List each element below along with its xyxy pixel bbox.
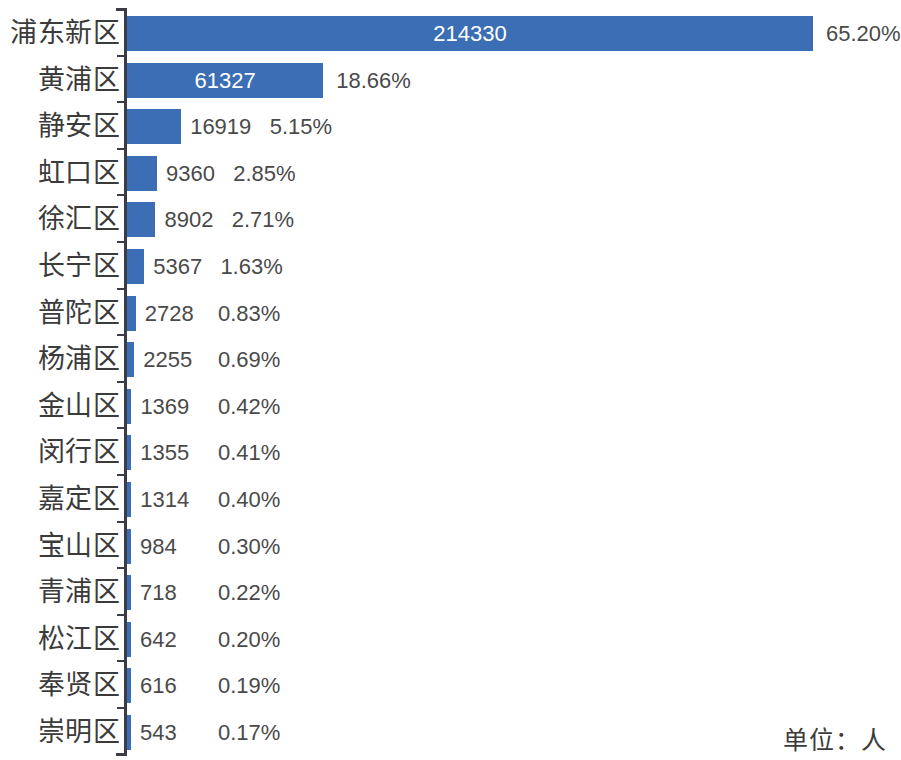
bar [127,389,131,424]
bar-percent-label: 0.20% [218,616,280,663]
bar-percent-label: 0.19% [218,662,280,709]
axis-tick [117,194,125,196]
axis-tick [117,614,125,616]
bar-value-label: 2255 [143,336,192,383]
bar-row: 静安区169195.15% [0,103,901,150]
bar-row: 松江区6420.20% [0,616,901,663]
axis-tick [117,8,125,10]
axis-tick [117,101,125,103]
bar-value-label: 2728 [145,290,194,337]
category-label: 崇明区 [38,709,121,756]
bar-value-label: 984 [140,523,177,570]
category-label: 宝山区 [38,523,121,570]
bar-value-label: 642 [140,616,177,663]
bar [127,342,134,377]
bar-row: 嘉定区13140.40% [0,476,901,523]
axis-tick [117,241,125,243]
category-label: 普陀区 [38,290,121,337]
axis-tick [117,55,125,57]
category-label: 浦东新区 [10,10,120,57]
axis-tick [117,427,125,429]
bar-value-label: 1355 [140,429,189,476]
axis-tick [117,567,125,569]
horizontal-bar-chart: 浦东新区21433065.20%黄浦区6132718.66%静安区169195.… [0,0,901,760]
bar-row: 虹口区93602.85% [0,150,901,197]
bar-row: 金山区13690.42% [0,383,901,430]
axis-tick [117,148,125,150]
bar-row: 闵行区13550.41% [0,429,901,476]
bar-percent-label: 0.42% [218,383,280,430]
axis-tick [117,707,125,709]
bar [127,249,144,284]
bar-percent-label: 5.15% [270,103,332,150]
category-label: 嘉定区 [38,476,121,523]
bar-percent-label: 0.83% [218,290,280,337]
bar-value-label: 1369 [140,383,189,430]
bar-row: 普陀区27280.83% [0,290,901,337]
bar-value-label: 616 [140,662,177,709]
bar-percent-label: 0.40% [218,476,280,523]
axis-tick [117,660,125,662]
bar [127,622,131,657]
bar-value-label: 1314 [140,476,189,523]
bar-value-label: 8902 [164,196,213,243]
bar-row: 黄浦区6132718.66% [0,57,901,104]
category-label: 徐汇区 [38,196,121,243]
bar [127,109,181,144]
bar-row: 徐汇区89022.71% [0,196,901,243]
bar-value-label: 16919 [190,103,251,150]
bar-row: 杨浦区22550.69% [0,336,901,383]
bar [127,482,131,517]
category-label: 虹口区 [38,150,121,197]
category-label: 奉贤区 [38,662,121,709]
bar-value-label: 718 [140,569,177,616]
bar-row: 奉贤区6160.19% [0,662,901,709]
bar [127,435,131,470]
bar-row: 浦东新区21433065.20% [0,10,901,57]
bar-percent-label: 18.66% [336,57,411,104]
category-label: 松江区 [38,616,121,663]
bar-row: 宝山区9840.30% [0,523,901,570]
category-label: 金山区 [38,383,121,430]
axis-tick [117,521,125,523]
bar-percent-label: 0.41% [218,429,280,476]
axis-tick [117,381,125,383]
bar-row: 崇明区5430.17% [0,709,901,756]
bar-percent-label: 0.30% [218,523,280,570]
bar-percent-label: 65.20% [826,10,901,57]
category-label: 青浦区 [38,569,121,616]
bar-value-label: 5367 [153,243,202,290]
category-label: 闵行区 [38,429,121,476]
category-label: 黄浦区 [38,57,121,104]
bar [127,715,131,750]
bar-value-label: 214330 [127,10,813,57]
bar-percent-label: 2.71% [232,196,294,243]
bar-value-label: 61327 [127,57,323,104]
bar-percent-label: 1.63% [220,243,282,290]
category-label: 长宁区 [38,243,121,290]
axis-tick [117,288,125,290]
axis-tick [117,474,125,476]
bar-percent-label: 0.22% [218,569,280,616]
bar-row: 青浦区7180.22% [0,569,901,616]
bar-percent-label: 2.85% [233,150,295,197]
bar-percent-label: 0.69% [218,336,280,383]
bar-value-label: 9360 [166,150,215,197]
bar-percent-label: 0.17% [218,709,280,756]
bar [127,156,157,191]
bar [127,575,131,610]
axis-tick [117,334,125,336]
bar [127,529,131,564]
bar-value-label: 543 [140,709,177,756]
category-label: 静安区 [38,103,121,150]
bar [127,202,155,237]
category-label: 杨浦区 [38,336,121,383]
bar [127,296,136,331]
unit-note: 单位：人 [783,720,887,756]
bar-row: 长宁区53671.63% [0,243,901,290]
bar [127,668,131,703]
